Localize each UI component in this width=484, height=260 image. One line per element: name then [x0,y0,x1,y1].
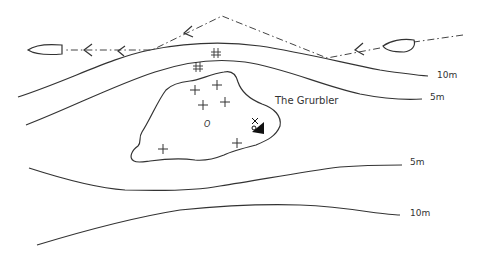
contour-label-north-10m: 10m [437,70,457,80]
contour-label-north-5m: 5m [430,92,445,102]
contour-south-10m [37,205,400,245]
contour-label-south-5m: 5m [410,157,425,167]
route-arrow-north [184,26,193,37]
boat-east [383,39,415,52]
route-arrow-right [118,46,125,56]
boat-west [28,45,62,55]
route-arrow-east [355,43,364,55]
nautical-chart: 10m 5m 5m 10m The Grurbler O [0,0,484,260]
rock-symbols [158,80,242,154]
reef-outline [131,71,280,162]
obstruction-label: O [204,120,210,129]
wreck-icon [252,118,264,134]
contour-south-5m [29,165,402,191]
chart-drawing [0,0,484,260]
contour-north-5m [26,60,422,125]
contour-label-south-10m: 10m [410,208,430,218]
feature-name-label: The Grurbler [275,95,338,106]
contour-north-10m [18,43,428,97]
